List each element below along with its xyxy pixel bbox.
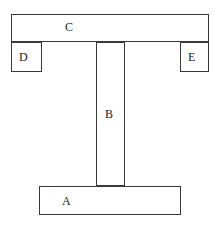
cross-section-diagram: A B C D E — [0, 0, 220, 227]
region-a-label: A — [62, 195, 71, 207]
region-b-label: B — [105, 108, 113, 120]
region-c-label: C — [65, 21, 73, 33]
region-e-label: E — [188, 51, 195, 63]
region-c-top-flange-rect — [12, 15, 209, 42]
region-d-label: D — [19, 51, 28, 63]
region-a-bottom-flange-rect — [40, 187, 181, 215]
